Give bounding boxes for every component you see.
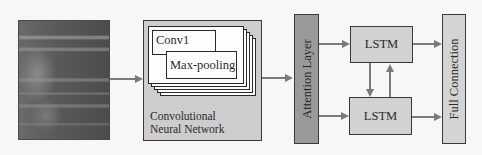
lstm-bottom-box: LSTM [349, 97, 412, 135]
full-connection-label: Full Connection [447, 39, 462, 120]
arrowhead-icon [434, 113, 442, 121]
arrow-lstm-bottom-to-fc [412, 116, 435, 118]
max-pooling-label: Max-pooling [170, 58, 235, 72]
cnn-label-line2: Neural Network [150, 123, 224, 136]
spectrogram-input-image [18, 20, 110, 140]
attention-layer-label: Attention Layer [299, 39, 314, 119]
arrowhead-icon [135, 75, 143, 83]
max-pooling-box: Max-pooling [166, 51, 237, 79]
arrow-lstm-top-to-bottom [369, 63, 371, 90]
arrowhead-icon [434, 40, 442, 48]
lstm-top-label: LSTM [365, 37, 398, 52]
arrow-lstm-top-to-fc [413, 43, 435, 45]
arrowhead-icon [341, 112, 349, 120]
arrow-lstm-bottom-to-top [389, 72, 391, 97]
cnn-label: Convolutional Neural Network [150, 110, 224, 136]
lstm-top-box: LSTM [350, 26, 413, 63]
arrowhead-up-icon [386, 64, 394, 72]
arrow-cnn-to-attention [262, 77, 286, 79]
cnn-label-line1: Convolutional [150, 110, 224, 123]
conv1-label: Conv1 [156, 33, 189, 47]
attention-layer: Attention Layer [294, 14, 319, 144]
arrowhead-down-icon [366, 89, 374, 97]
lstm-bottom-label: LSTM [364, 109, 397, 124]
arrow-attention-to-lstm-top [319, 43, 343, 45]
arrowhead-icon [285, 74, 293, 82]
arrow-input-to-cnn [110, 78, 136, 80]
arrowhead-icon [342, 40, 350, 48]
arrow-attention-to-lstm-bottom [319, 115, 342, 117]
full-connection-layer: Full Connection [442, 14, 466, 144]
